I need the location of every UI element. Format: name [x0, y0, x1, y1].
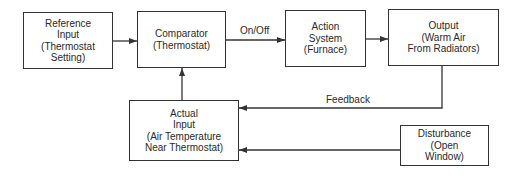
comparator-block: Comparator (Thermostat)	[137, 11, 226, 68]
output-block: Output (Warm Air From Radiators)	[388, 9, 499, 66]
comparator-label: Comparator (Thermostat)	[153, 28, 210, 51]
actual-input-label: Actual Input (Air Temperature Near Therm…	[145, 108, 223, 154]
on-off-edge-label: On/Off	[240, 25, 269, 36]
reference-input-block: Reference Input (Thermostat Setting)	[23, 12, 113, 69]
feedback-edge-label: Feedback	[326, 94, 370, 105]
action-system-block: Action System (Furnace)	[285, 10, 366, 67]
disturbance-label: Disturbance (Open Window)	[418, 128, 471, 163]
disturbance-block: Disturbance (Open Window)	[400, 125, 489, 166]
reference-input-label: Reference Input (Thermostat Setting)	[41, 18, 95, 64]
output-label: Output (Warm Air From Radiators)	[407, 20, 479, 55]
actual-input-block: Actual Input (Air Temperature Near Therm…	[129, 100, 239, 161]
action-system-label: Action System (Furnace)	[304, 21, 347, 56]
